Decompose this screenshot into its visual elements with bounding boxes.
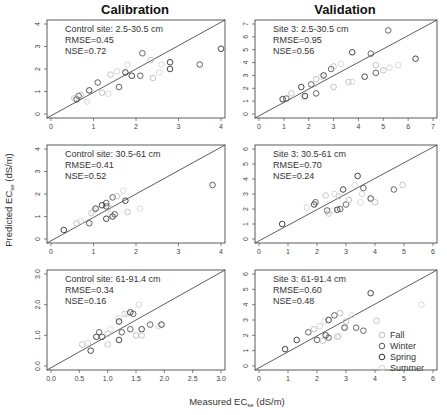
rmse-label: RMSE=0.34	[65, 285, 114, 295]
y-tick-label: 4	[34, 22, 41, 26]
data-point	[147, 322, 153, 328]
data-point	[123, 70, 129, 76]
data-point	[380, 67, 386, 73]
y-tick-label: 3	[242, 318, 249, 322]
data-point	[167, 59, 173, 65]
data-point	[358, 199, 364, 205]
data-point	[372, 199, 378, 205]
data-point	[284, 96, 290, 102]
data-point	[419, 302, 425, 308]
figure: Calibration Validation 0123401234Control…	[0, 0, 447, 415]
scatter-panel-5: 0.00.51.01.52.02.53.00.01.02.03.0Control…	[34, 269, 226, 382]
y-tick-label: 3	[242, 192, 249, 196]
scatter-panel-3: 0123401234Control site: 30.5-61 cmRMSE=0…	[34, 145, 225, 255]
x-tick-label: 5	[381, 123, 385, 130]
x-tick-label: 1	[286, 248, 290, 255]
y-tick-label: 0	[242, 364, 249, 368]
rmse-label: RMSE=0.41	[65, 160, 114, 170]
nse-label: NSE=0.24	[273, 171, 314, 181]
y-tick-label: 4	[242, 61, 249, 65]
rmse-label: RMSE=0.45	[65, 35, 114, 45]
y-tick-label: 6	[242, 147, 249, 151]
nse-label: NSE=0.72	[65, 46, 106, 56]
x-tick-label: 6	[406, 123, 410, 130]
data-point	[306, 329, 312, 335]
x-tick-label: 2.0	[159, 375, 169, 382]
legend-item: Winter	[390, 341, 416, 351]
y-tick-label: 3	[242, 73, 249, 77]
data-point	[342, 325, 348, 331]
x-tick-label: 2	[307, 123, 311, 130]
x-tick-label: 4	[219, 123, 223, 130]
data-point	[218, 46, 224, 52]
data-point	[114, 68, 120, 74]
data-point	[139, 326, 145, 332]
panel-subtitle: Control site: 30.5-61 cm	[65, 149, 161, 159]
y-tick-label: 1	[242, 99, 249, 103]
y-tick-label: 5	[242, 162, 249, 166]
data-point	[353, 325, 359, 331]
data-point	[373, 62, 379, 68]
data-point	[314, 337, 320, 343]
y-tick-label: 6	[242, 272, 249, 276]
data-point	[210, 182, 216, 188]
data-point	[105, 342, 111, 348]
x-tick-label: 6	[431, 375, 435, 382]
scatter-panel-2: 0123456701234567Site 3: 2.5-30.5 cmRMSE=…	[242, 20, 437, 130]
y-tick-label: 1.0	[34, 330, 41, 340]
data-point	[373, 70, 379, 76]
x-tick-label: 2	[315, 248, 319, 255]
x-tick-label: 3	[344, 248, 348, 255]
data-point	[125, 62, 131, 68]
data-point	[361, 328, 367, 334]
data-point	[346, 79, 352, 85]
data-point	[137, 73, 143, 79]
data-point	[332, 191, 338, 197]
y-tick-label: 1	[242, 222, 249, 226]
y-tick-label: 2	[242, 86, 249, 90]
data-point	[84, 99, 90, 105]
validation-title: Validation	[314, 2, 375, 17]
x-tick-label: 4	[373, 375, 377, 382]
x-tick-label: 4	[373, 248, 377, 255]
x-tick-label: 3.0	[216, 375, 226, 382]
data-point	[332, 313, 338, 319]
x-tick-label: 1	[286, 375, 290, 382]
x-tick-label: 1	[282, 123, 286, 130]
x-tick-label: 4	[219, 248, 223, 255]
data-point	[317, 323, 323, 329]
data-point	[395, 62, 401, 68]
data-point	[301, 94, 307, 100]
y-tick-label: 4	[34, 147, 41, 151]
data-point	[308, 82, 314, 88]
data-point	[368, 290, 374, 296]
x-tick-label: 5	[402, 375, 406, 382]
data-point	[337, 310, 343, 316]
data-point	[157, 70, 163, 76]
data-point	[355, 173, 361, 179]
x-tick-label: 0	[49, 123, 53, 130]
y-tick-label: 0	[242, 237, 249, 241]
scatter-panel-1: 0123401234Control site: 2.5-30.5 cmRMSE=…	[34, 20, 225, 130]
panel-subtitle: Site 3: 2.5-30.5 cm	[273, 24, 349, 34]
data-point	[99, 90, 105, 96]
panel-subtitle: Site 3: 30.5-61 cm	[273, 149, 346, 159]
y-tick-label: 2	[242, 333, 249, 337]
data-point	[385, 28, 391, 34]
y-tick-label: 2.0	[34, 300, 41, 310]
calibration-title: Calibration	[101, 2, 169, 17]
data-point	[338, 61, 344, 67]
y-tick-label: 0.0	[34, 361, 41, 371]
legend: FallWinterSpringSummer	[379, 330, 424, 373]
data-point	[61, 227, 67, 233]
data-point	[331, 84, 337, 90]
data-point	[197, 62, 203, 68]
legend-marker-icon	[379, 343, 385, 349]
y-tick-label: 3	[34, 169, 41, 173]
data-point	[108, 326, 114, 332]
legend-item: Summer	[390, 363, 424, 373]
y-tick-label: 3.0	[34, 269, 41, 279]
x-tick-label: 2	[315, 375, 319, 382]
rmse-label: RMSE=0.95	[273, 35, 322, 45]
x-tick-label: 3	[332, 123, 336, 130]
